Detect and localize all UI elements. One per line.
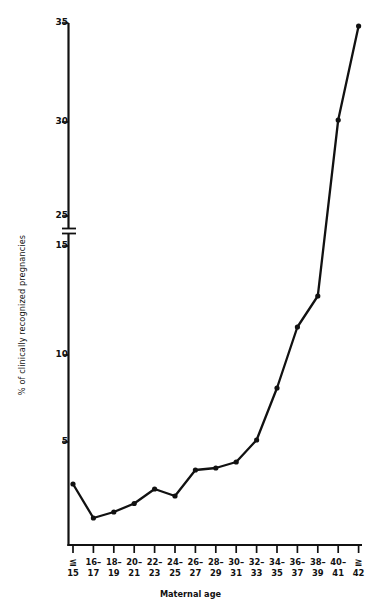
x-axis-title: Maternal age — [0, 589, 381, 599]
y-tick-label-5: 5 — [32, 436, 68, 446]
data-point — [254, 437, 259, 442]
data-point — [274, 385, 279, 390]
data-point — [111, 509, 116, 514]
y-tick-label-25: 25 — [32, 210, 68, 220]
data-point — [315, 293, 320, 298]
data-point — [152, 486, 157, 491]
y-tick-label-30: 30 — [32, 116, 68, 126]
x-axis-ticks — [73, 545, 359, 553]
data-point — [356, 23, 361, 28]
data-point — [213, 465, 218, 470]
data-point — [70, 481, 75, 486]
y-tick-label-10: 10 — [32, 349, 68, 359]
data-point — [172, 493, 177, 498]
chart-figure: % of clinically recognized pregnancies — [0, 0, 381, 605]
y-tick-label-15: 15 — [32, 240, 68, 250]
data-point — [193, 467, 198, 472]
chart-plot-area — [0, 0, 381, 605]
data-point — [132, 501, 137, 506]
data-series-line — [73, 26, 359, 518]
data-point — [295, 324, 300, 329]
x-tick-label-ge42: ≧ 42 — [342, 557, 376, 578]
data-point — [91, 515, 96, 520]
data-point — [336, 117, 341, 122]
y-tick-label-35: 35 — [32, 17, 68, 27]
data-point — [234, 459, 239, 464]
data-series-markers — [70, 23, 361, 520]
